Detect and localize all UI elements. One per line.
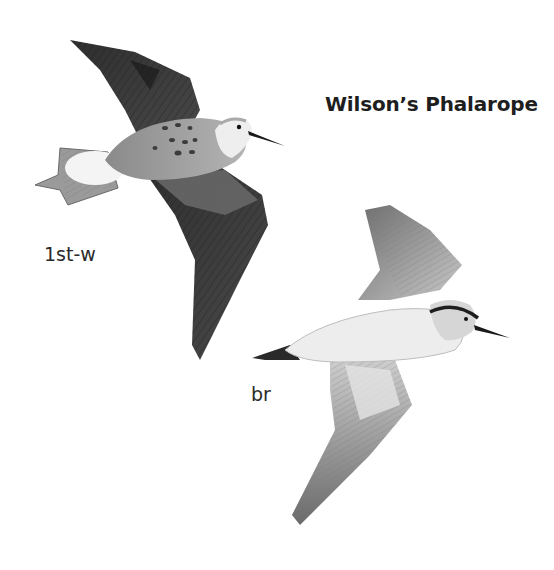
bird-first-winter (35, 40, 285, 360)
bird-breeding (252, 205, 510, 525)
bird-illustrations (0, 0, 554, 570)
figure-label-first-winter: 1st-w (44, 243, 96, 265)
figure-label-breeding: br (251, 383, 271, 405)
plate-title: Wilson’s Phalarope (325, 92, 538, 116)
